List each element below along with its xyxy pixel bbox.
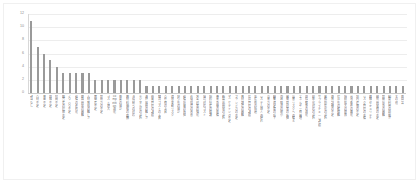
bar[interactable] (30, 21, 32, 93)
x-tick-label: その他 (394, 95, 399, 105)
bar[interactable] (216, 86, 218, 93)
x-tick-label: 事業承継の準備 (215, 95, 220, 118)
bar[interactable] (75, 73, 77, 93)
bar[interactable] (248, 86, 250, 93)
x-tick-label: 経営者の理解不足 (61, 95, 66, 121)
bar[interactable] (107, 80, 109, 93)
x-tick-label: 新製品開発の遅れ (221, 95, 226, 121)
x-tick-label: コスト増大 (106, 95, 111, 111)
bar[interactable] (94, 80, 96, 93)
bar[interactable] (299, 86, 301, 93)
x-tick-label: 取引先の減少 (176, 95, 181, 115)
bar[interactable] (286, 86, 288, 93)
bar[interactable] (133, 80, 135, 93)
x-tick-label: ブランド力の不足 (234, 95, 239, 121)
bar[interactable] (126, 80, 128, 93)
bar[interactable] (190, 86, 192, 93)
bar[interactable] (267, 86, 269, 93)
bar[interactable] (210, 86, 212, 93)
x-tick-label: 国際競争の激化 (304, 95, 309, 118)
bar[interactable] (312, 86, 314, 93)
bar[interactable] (280, 86, 282, 93)
bar[interactable] (370, 86, 372, 93)
bar[interactable] (357, 86, 359, 93)
bar[interactable] (222, 86, 224, 93)
bar[interactable] (389, 86, 391, 93)
bar[interactable] (165, 86, 167, 93)
x-tick-label: 設備の老朽化 (74, 95, 79, 115)
bar[interactable] (56, 67, 58, 93)
x-tick-label: システム導入の遅れ (259, 95, 264, 125)
bar[interactable] (306, 86, 308, 93)
x-tick-label: 労働環境の改善 (189, 95, 194, 118)
x-tick-label: 業務効率化の遅れ (323, 95, 328, 121)
x-tick-label: 人件費の上昇 (163, 95, 168, 115)
bar[interactable] (395, 86, 397, 93)
bar[interactable] (402, 86, 404, 93)
bar[interactable] (261, 86, 263, 93)
x-tick-label: 情報セキュリティ (368, 95, 373, 121)
bar[interactable] (158, 86, 160, 93)
bar[interactable] (101, 80, 103, 93)
y-tick-label: 10 (20, 25, 24, 29)
x-tick-label: 海外展開の難しさ (144, 95, 149, 121)
bar[interactable] (88, 73, 90, 93)
x-tick-label: 資金不足 (42, 95, 47, 108)
y-tick-label: 0 (22, 91, 24, 95)
bar[interactable] (139, 80, 141, 93)
bar[interactable] (350, 86, 352, 93)
x-tick-label: マーケティング不足 (227, 95, 232, 125)
bar[interactable] (229, 86, 231, 93)
bar[interactable] (120, 80, 122, 93)
bar[interactable] (203, 86, 205, 93)
bar[interactable] (363, 86, 365, 93)
bar[interactable] (293, 86, 295, 93)
x-tick-label: 技能伝承の困難 (381, 95, 386, 118)
y-tick-label: 2 (22, 78, 24, 82)
bar[interactable] (37, 47, 39, 93)
bar[interactable] (242, 86, 244, 93)
bar[interactable] (197, 86, 199, 93)
bar[interactable] (152, 86, 154, 93)
chart-plot-wrapper: 121086420 該当なし人材不足資金不足情報不足時間不足経営者の理解不足ノウ… (4, 4, 417, 181)
x-tick-label: 物流コストの上昇 (157, 95, 162, 121)
x-tick-label: 環境対応コスト (202, 95, 207, 118)
bar[interactable] (81, 73, 83, 93)
x-tick-label: 後継者不足 (93, 95, 98, 111)
bar[interactable] (325, 86, 327, 93)
x-tick-label: 社内連携の不足 (355, 95, 360, 118)
bar-series (28, 14, 406, 93)
x-tick-label: 知的財産の保護 (208, 95, 213, 118)
bar[interactable] (43, 54, 45, 94)
x-tick-label: 安全対策の強化 (195, 95, 200, 118)
bar[interactable] (113, 80, 115, 93)
x-tick-label: 該当なし (29, 95, 34, 108)
bar[interactable] (318, 86, 320, 93)
bar[interactable] (254, 86, 256, 93)
bar[interactable] (171, 86, 173, 93)
bar[interactable] (338, 86, 340, 93)
x-tick-label: 規模拡大の限界 (343, 95, 348, 118)
bar[interactable] (235, 86, 237, 93)
x-tick-label: 災害リスクへの備え (291, 95, 296, 125)
bar[interactable] (184, 86, 186, 93)
bar[interactable] (344, 86, 346, 93)
x-tick-label: 営業力の不足 (266, 95, 271, 115)
bar[interactable] (331, 86, 333, 93)
x-tick-label: リスク管理の不備 (362, 95, 367, 121)
x-tick-label: competition激化 (112, 95, 117, 115)
y-tick-label: 8 (22, 39, 24, 43)
bar[interactable] (178, 86, 180, 93)
x-tick-label: 品質管理の課題 (150, 95, 155, 118)
bar[interactable] (145, 86, 147, 93)
chart-container: 121086420 該当なし人材不足資金不足情報不足時間不足経営者の理解不足ノウ… (3, 3, 416, 180)
bar[interactable] (62, 73, 64, 93)
bar[interactable] (376, 86, 378, 93)
y-axis: 121086420 (4, 4, 26, 99)
bar[interactable] (49, 60, 51, 93)
x-tick-label: 無回答 (400, 95, 405, 105)
x-tick-label: 人材育成の難しさ (86, 95, 91, 121)
bar[interactable] (383, 86, 385, 93)
bar[interactable] (69, 73, 71, 93)
bar[interactable] (274, 86, 276, 93)
